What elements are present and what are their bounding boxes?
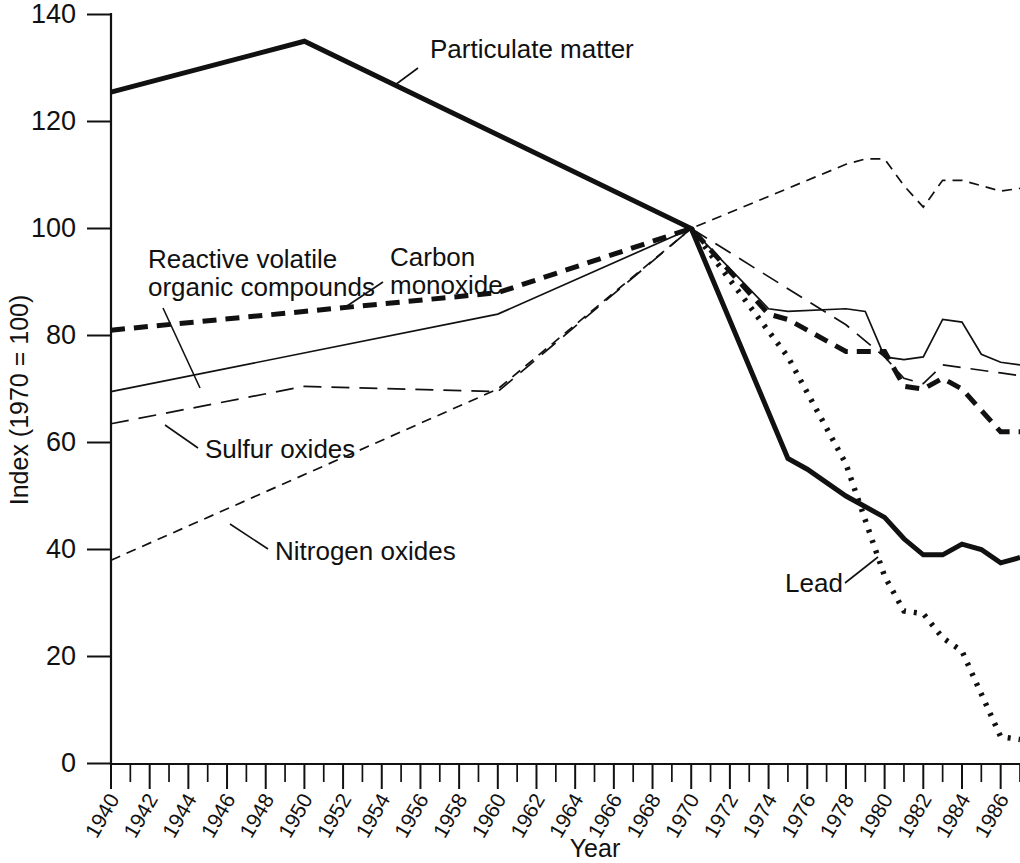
x-tick-label-1970: 1970 xyxy=(660,790,703,842)
x-tick-label-1940: 1940 xyxy=(80,790,123,842)
annotation-reactive-volatile: Reactive volatile xyxy=(148,244,337,274)
annotation-monoxide: monoxide xyxy=(390,270,503,300)
y-tick-label-80: 80 xyxy=(46,320,76,350)
x-tick-label-1976: 1976 xyxy=(776,790,819,842)
x-tick-label-1978: 1978 xyxy=(815,790,858,842)
x-tick-label-1958: 1958 xyxy=(428,790,471,842)
annotation-particulate-matter: Particulate matter xyxy=(430,34,634,64)
annotation-lead: Lead xyxy=(785,568,843,598)
x-tick-label-1952: 1952 xyxy=(312,790,355,842)
annotation-organic-compounds: organic compounds xyxy=(148,272,375,302)
series-group xyxy=(111,41,1020,739)
y-tick-label-group: 020406080100120140 xyxy=(31,0,76,778)
y-tick-group xyxy=(87,15,111,764)
x-tick-label-1954: 1954 xyxy=(351,789,394,841)
x-tick-label-1982: 1982 xyxy=(892,790,935,842)
y-tick-label-120: 120 xyxy=(31,106,76,136)
x-tick-label-1962: 1962 xyxy=(506,790,549,842)
leader-line-organic-compounds xyxy=(163,308,200,388)
x-tick-label-1980: 1980 xyxy=(854,790,897,842)
y-tick-label-40: 40 xyxy=(46,534,76,564)
chart-figure: 020406080100120140 194019421944194619481… xyxy=(0,0,1020,863)
x-tick-label-1968: 1968 xyxy=(622,790,665,842)
leader-line-sulfur-oxides xyxy=(165,425,198,448)
x-tick-group xyxy=(111,764,1020,789)
x-tick-label-1948: 1948 xyxy=(235,790,278,842)
leader-line-nitrogen-oxides xyxy=(230,524,268,549)
x-tick-label-group: 1940194219441946194819501952195419561958… xyxy=(80,789,1013,841)
x-tick-label-1984: 1984 xyxy=(931,789,974,841)
series-particulate-matter xyxy=(111,41,1020,563)
leader-line-lead xyxy=(845,557,878,583)
y-tick-label-100: 100 xyxy=(31,213,76,243)
y-tick-label-0: 0 xyxy=(61,748,76,778)
x-tick-label-1946: 1946 xyxy=(196,790,239,842)
y-tick-label-20: 20 xyxy=(46,641,76,671)
x-tick-label-1956: 1956 xyxy=(390,790,433,842)
annotation-sulfur-oxides: Sulfur oxides xyxy=(205,434,355,464)
series-lead xyxy=(691,229,1020,740)
series-nitrogen-oxides xyxy=(111,159,1020,560)
x-tick-label-1950: 1950 xyxy=(274,790,317,842)
axes-group xyxy=(111,14,1020,764)
y-axis-title: Index (1970 = 100) xyxy=(5,295,33,506)
annotation-carbon: Carbon xyxy=(390,242,475,272)
x-axis-title: Year xyxy=(570,834,621,862)
y-tick-label-60: 60 xyxy=(46,427,76,457)
x-tick-label-1974: 1974 xyxy=(738,789,781,841)
x-tick-label-1960: 1960 xyxy=(467,790,510,842)
x-tick-label-1986: 1986 xyxy=(970,790,1013,842)
x-tick-label-1944: 1944 xyxy=(158,789,201,841)
annotation-nitrogen-oxides: Nitrogen oxides xyxy=(275,536,456,566)
leader-line-particulate-matter xyxy=(395,68,418,85)
x-tick-label-1972: 1972 xyxy=(699,790,742,842)
x-tick-label-1942: 1942 xyxy=(119,790,162,842)
air-pollutant-index-line-chart: 020406080100120140 194019421944194619481… xyxy=(0,0,1020,863)
y-tick-label-140: 140 xyxy=(31,0,76,29)
